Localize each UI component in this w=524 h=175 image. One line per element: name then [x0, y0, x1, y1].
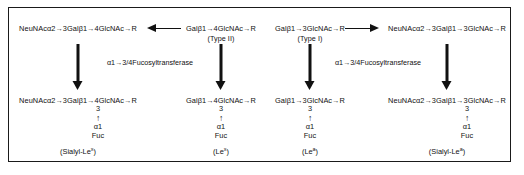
sialyl-lex-backbone: NeuNAcα2→3Galβ1→4GlcNAc→R	[19, 96, 137, 105]
sialyl-lea-backbone: NeuNAcα2→3Galβ1→3GlcNAc→R	[388, 96, 506, 105]
enzyme-label-right: α1→3/4Fucosyltransferase	[335, 58, 421, 67]
fucosylation-arrow-lea	[304, 44, 317, 90]
type1-precursor-type-name: (Type I)	[298, 34, 323, 43]
product-name-suffix: )	[94, 147, 96, 156]
sialylation-arrow-type1	[345, 23, 379, 34]
arrow-shaft	[309, 44, 311, 81]
lea-sugar: Fuc	[304, 132, 316, 141]
sialyl-lex-sugar: Fuc	[92, 132, 104, 141]
product-name-lea: (Lea)	[302, 147, 318, 156]
arrow-head-down-icon	[216, 81, 226, 90]
top-right-sialylated-type1: NeuNAcα2→3Galβ1→3GlcNAc→R	[388, 24, 506, 33]
product-name-suffix: )	[463, 147, 465, 156]
type2-precursor-label: Galβ1→4GlcNAc→R	[186, 24, 256, 33]
product-name-prefix: (Sialyl-Le	[429, 147, 460, 156]
arrow-shaft	[155, 28, 181, 30]
product-name-lex: (Lex)	[213, 147, 229, 156]
product-name-prefix: (Le	[302, 147, 313, 156]
arrow-shaft	[446, 44, 448, 81]
product-name-prefix: (Sialyl-Le	[60, 147, 91, 156]
lex-sugar: Fuc	[215, 132, 227, 141]
arrow-head-down-icon	[442, 81, 452, 90]
arrow-head-down-icon	[73, 81, 83, 90]
fucosylation-arrow-sialyl-lea	[441, 44, 454, 90]
product-name-sialyl-lea: (Sialyl-Lea)	[429, 147, 465, 156]
arrow-shaft	[345, 28, 371, 30]
top-left-sialylated-type2: NeuNAcα2→3Galβ1→4GlcNAc→R	[19, 24, 137, 33]
enzyme-label-left: α1→3/4Fucosyltransferase	[107, 58, 193, 67]
type1-precursor-label: Galβ1→3GlcNAc→R	[275, 24, 345, 33]
fucosylation-arrow-sialyl-lex	[72, 44, 85, 90]
sialyl-lea-sugar: Fuc	[461, 132, 473, 141]
product-name-suffix: )	[316, 147, 318, 156]
arrow-head-right-icon	[370, 24, 379, 32]
glycan-biosynthesis-figure: NeuNAcα2→3Galβ1→4GlcNAc→R Galβ1→4GlcNAc→…	[0, 0, 524, 175]
sialylation-arrow-type2	[147, 23, 181, 34]
type2-precursor-type-name: (Type II)	[208, 34, 235, 43]
arrow-head-down-icon	[305, 81, 315, 90]
product-name-prefix: (Le	[213, 147, 224, 156]
product-name-sialyl-lex: (Sialyl-Lex)	[60, 147, 96, 156]
fucosylation-arrow-lex	[215, 44, 228, 90]
product-name-suffix: )	[226, 147, 228, 156]
arrow-shaft	[220, 44, 222, 81]
arrow-shaft	[77, 44, 79, 81]
